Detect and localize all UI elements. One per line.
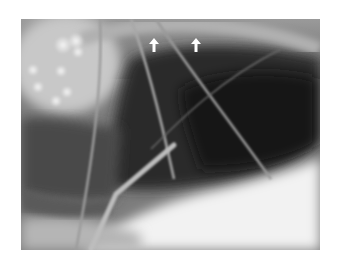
radiograph-image: [21, 19, 320, 250]
radiograph-svg: [21, 19, 320, 250]
arrow-up-icon: [191, 38, 201, 52]
arrow-up-icon: [149, 38, 159, 52]
